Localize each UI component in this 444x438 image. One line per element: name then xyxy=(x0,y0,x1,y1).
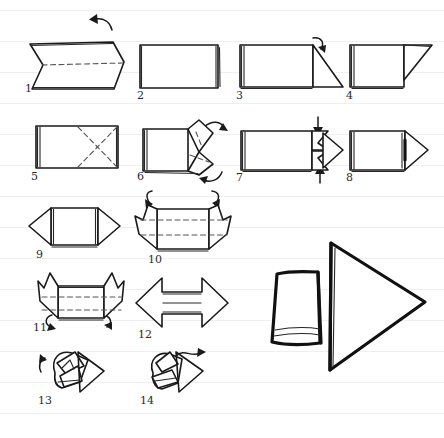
step-8-number: 8 xyxy=(346,171,353,184)
step-9-number: 9 xyxy=(36,248,43,261)
step-3-figure: 3 xyxy=(236,38,343,102)
step-1-figure: 1 xyxy=(25,14,124,95)
step-1-motion-arrow xyxy=(89,14,112,30)
origami-instruction-page: .ink { fill:none; stroke:#1a1a1a; stroke… xyxy=(0,0,444,438)
step-6-motion-arrow-bottom xyxy=(199,172,222,184)
step-1-number: 1 xyxy=(25,82,32,95)
step-13-number: 13 xyxy=(38,394,52,407)
step-11-motion-arrow-left xyxy=(46,315,56,331)
step-11-figure: 11 xyxy=(33,273,124,334)
step-14-number: 14 xyxy=(140,394,154,407)
step-5-figure: 5 xyxy=(31,126,118,183)
step-3-number: 3 xyxy=(236,89,243,102)
step-7-figure: 7 xyxy=(236,117,343,184)
step-4-figure: 4 xyxy=(346,45,432,102)
step-6-figure: 6 xyxy=(137,120,228,184)
finished-arrow-illustration xyxy=(272,243,425,370)
step-7-number: 7 xyxy=(236,171,243,184)
step-12-figure: 12 xyxy=(136,278,228,341)
step-4-number: 4 xyxy=(346,89,353,102)
step-8-figure: 8 xyxy=(346,131,428,184)
diagram-canvas: .ink { fill:none; stroke:#1a1a1a; stroke… xyxy=(0,0,444,438)
step-10-number: 10 xyxy=(148,253,162,266)
step-5-number: 5 xyxy=(31,170,38,183)
step-10-figure: 10 xyxy=(135,191,231,266)
step-12-number: 12 xyxy=(138,328,152,341)
step-13-motion-arrow xyxy=(39,354,47,372)
step-2-number: 2 xyxy=(137,89,144,102)
step-6-number: 6 xyxy=(137,170,144,183)
step-9-figure: 9 xyxy=(29,208,120,261)
step-14-figure: 14 xyxy=(140,348,206,407)
step-13-figure: 13 xyxy=(38,352,104,407)
step-11-number: 11 xyxy=(33,321,47,334)
step-2-figure: 2 xyxy=(137,45,220,102)
